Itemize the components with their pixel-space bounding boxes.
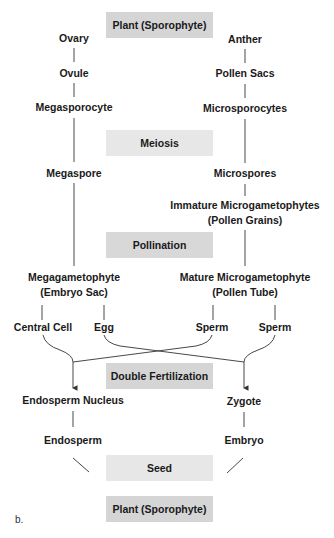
label-embryo-sac: (Embryo Sac) bbox=[40, 285, 108, 299]
label-pollen-grains: (Pollen Grains) bbox=[208, 213, 283, 227]
label-central-cell: Central Cell bbox=[14, 320, 72, 334]
label-megasporocyte: Megasporocyte bbox=[35, 100, 112, 114]
label-mature-microgametophyte: Mature Microgametophyte bbox=[180, 270, 311, 284]
stage-plant-sporophyte-top: Plant (Sporophyte) bbox=[106, 12, 213, 38]
stage-meiosis: Meiosis bbox=[106, 130, 213, 156]
stage-seed: Seed bbox=[106, 455, 213, 481]
label-megagametophyte: Megagametophyte bbox=[28, 270, 120, 284]
stage-plant-sporophyte-bottom: Plant (Sporophyte) bbox=[106, 496, 213, 522]
stage-double-fertilization: Double Fertilization bbox=[106, 363, 213, 389]
label-sperm-1: Sperm bbox=[196, 320, 229, 334]
panel-label: b. bbox=[15, 514, 23, 525]
label-megaspore: Megaspore bbox=[46, 166, 101, 180]
label-embryo: Embryo bbox=[224, 433, 263, 447]
stage-pollination: Pollination bbox=[106, 232, 213, 258]
label-ovary: Ovary bbox=[59, 31, 89, 45]
label-microsporocytes: Microsporocytes bbox=[203, 101, 287, 115]
label-endosperm-nucleus: Endosperm Nucleus bbox=[22, 393, 124, 407]
label-immature-microgametophytes: Immature Microgametophytes bbox=[170, 198, 319, 212]
label-zygote: Zygote bbox=[227, 394, 261, 408]
label-ovule: Ovule bbox=[59, 66, 88, 80]
label-microspores: Microspores bbox=[214, 166, 276, 180]
label-endosperm: Endosperm bbox=[44, 433, 102, 447]
label-anther: Anther bbox=[228, 32, 262, 46]
label-pollen-tube: (Pollen Tube) bbox=[212, 285, 278, 299]
label-pollen-sacs: Pollen Sacs bbox=[216, 66, 275, 80]
label-egg: Egg bbox=[94, 320, 114, 334]
label-sperm-2: Sperm bbox=[259, 320, 292, 334]
